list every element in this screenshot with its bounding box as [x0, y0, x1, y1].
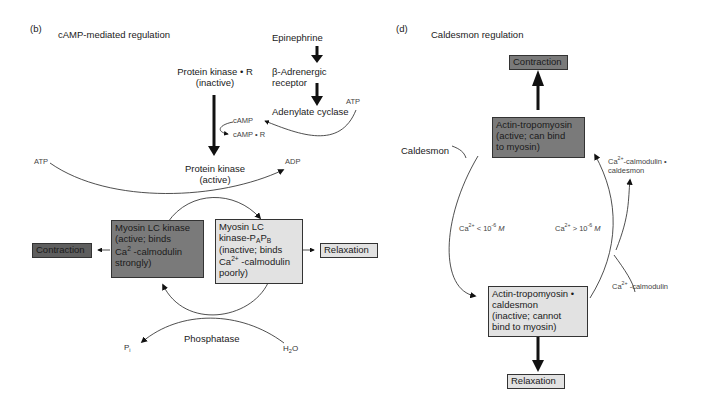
- diagram-arrows: [0, 0, 712, 408]
- protein-kinase-active-label: Protein kinase(active): [180, 164, 250, 186]
- caldesmon-label: Caldesmon: [401, 146, 449, 157]
- panel-b-title: cAMP-mediated regulation: [58, 30, 170, 41]
- mlck-inactive-box: Myosin LC kinase-PAPB (inactive; binds C…: [215, 219, 303, 284]
- ca-high-label: Ca2+ > 10-6 M: [555, 222, 601, 234]
- ca-low-label: Ca2+ < 10-6 M: [459, 222, 505, 234]
- h2o-label: H2O: [283, 344, 298, 354]
- camp-label: cAMP: [233, 117, 253, 126]
- camp-r-label: cAMP • R: [233, 131, 265, 140]
- contraction-box-d: Contraction: [509, 55, 568, 70]
- epinephrine-label: Epinephrine: [272, 33, 323, 44]
- actin-inactive-box: Actin-tropomyosin • caldesmon (inactive;…: [488, 286, 588, 337]
- protein-kinase-r-label: Protein kinase • R(inactive): [170, 67, 260, 89]
- ca-calmodulin-caldesmon-label: Ca2+-calmodulin •caldesmon: [608, 155, 667, 175]
- panel-d-title: Caldesmon regulation: [431, 30, 523, 41]
- receptor-label: β-Adrenergicreceptor: [272, 67, 327, 89]
- atp-top-label: ATP: [346, 98, 360, 107]
- actin-active-box: Actin-tropomyosin (active; can bind to m…: [492, 117, 585, 158]
- adp-label: ADP: [285, 158, 300, 167]
- panel-d-label: (d): [396, 24, 408, 35]
- panel-b-label: (b): [30, 24, 42, 35]
- phosphatase-label: Phosphatase: [184, 334, 239, 345]
- ca-calmodulin-label: Ca2+ -calmodulin: [612, 280, 668, 292]
- relaxation-box-b: Relaxation: [320, 243, 378, 258]
- adenylate-cyclase-label: Adenylate cyclase: [272, 107, 349, 118]
- pi-label: Pi: [124, 343, 131, 353]
- mlck-active-box: Myosin LC kinase (active; binds Ca2 -cal…: [111, 220, 204, 278]
- atp-left-label: ATP: [34, 158, 48, 167]
- contraction-box-b: Contraction: [32, 243, 92, 258]
- relaxation-box-d: Relaxation: [507, 374, 565, 389]
